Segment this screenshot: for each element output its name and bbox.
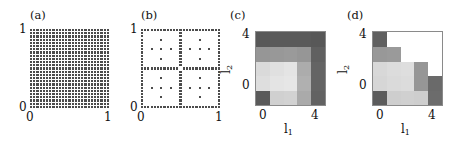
panel-a-ytick-top: 1 (19, 22, 27, 36)
grid-point (72, 90, 74, 92)
sparse-grid-point (218, 103, 220, 105)
grid-point (72, 51, 74, 53)
grid-point (100, 67, 102, 69)
grid-point (97, 61, 99, 63)
grid-point (33, 71, 35, 73)
grid-point (68, 90, 70, 92)
grid-point (104, 103, 106, 105)
heatmap-cell (297, 47, 311, 62)
grid-point (88, 74, 90, 76)
grid-point (68, 61, 70, 63)
grid-point (72, 67, 74, 69)
sparse-grid-point (192, 106, 194, 108)
heatmap-cell (373, 61, 387, 76)
heatmap-cell (311, 90, 325, 105)
grid-point (72, 64, 74, 66)
heatmap-cell (428, 47, 442, 62)
grid-point (68, 35, 70, 37)
grid-point (94, 42, 96, 44)
grid-point (107, 103, 109, 105)
grid-point (84, 55, 86, 57)
grid-point (36, 80, 38, 82)
grid-point (56, 35, 58, 37)
grid-point (75, 74, 77, 76)
grid-point (46, 103, 48, 105)
grid-point (36, 61, 38, 63)
grid-point (49, 61, 51, 63)
grid-point (49, 58, 51, 60)
grid-point (107, 35, 109, 37)
grid-point (68, 29, 70, 31)
grid-point (62, 96, 64, 98)
grid-point (43, 35, 45, 37)
grid-point (33, 103, 35, 105)
grid-point (56, 39, 58, 41)
grid-point (43, 29, 45, 31)
grid-point (62, 87, 64, 89)
grid-point (33, 48, 35, 50)
sparse-grid-point (218, 90, 220, 92)
grid-point (78, 51, 80, 53)
grid-point (65, 90, 67, 92)
grid-point (97, 99, 99, 101)
sparse-grid-point (179, 51, 181, 53)
grid-point (91, 48, 93, 50)
grid-point (91, 71, 93, 73)
grid-point (36, 58, 38, 60)
grid-point (65, 106, 67, 108)
sparse-grid-point (199, 29, 201, 31)
panel-c-xtick-0: 0 (259, 108, 267, 122)
sparse-grid-point (186, 106, 188, 108)
grid-point (52, 96, 54, 98)
sparse-grid-point (186, 29, 188, 31)
sparse-grid-point (218, 29, 220, 31)
grid-point (84, 39, 86, 41)
grid-point (104, 67, 106, 69)
grid-point (43, 71, 45, 73)
grid-point (40, 103, 42, 105)
sparse-grid-point (157, 67, 159, 69)
heatmap-cell (373, 90, 387, 105)
grid-point (94, 29, 96, 31)
grid-point (30, 45, 32, 47)
grid-point (33, 67, 35, 69)
grid-point (94, 96, 96, 98)
sparse-grid-point (141, 48, 143, 50)
sparse-grid-point (147, 106, 149, 108)
grid-point (94, 51, 96, 53)
grid-point (43, 103, 45, 105)
grid-point (59, 93, 61, 95)
grid-point (36, 67, 38, 69)
grid-point (40, 48, 42, 50)
heatmap-cell (401, 32, 415, 47)
grid-point (94, 99, 96, 101)
sparse-grid-point (179, 58, 181, 60)
grid-point (30, 90, 32, 92)
sparse-grid-point (211, 67, 213, 69)
grid-point (75, 67, 77, 69)
panel-c-ytick-0: 0 (242, 78, 250, 92)
grid-point (30, 83, 32, 85)
heatmap-cell (256, 61, 270, 76)
sparse-grid-point (218, 61, 220, 63)
grid-point (36, 45, 38, 47)
grid-point (84, 99, 86, 101)
panel-d-plot-area (372, 31, 443, 106)
sparse-grid-point (202, 67, 204, 69)
grid-point (75, 48, 77, 50)
sparse-grid-point (141, 29, 143, 31)
grid-point (59, 48, 61, 50)
grid-point (40, 93, 42, 95)
grid-point (59, 67, 61, 69)
grid-point (49, 45, 51, 47)
grid-point (104, 29, 106, 31)
grid-point (97, 67, 99, 69)
grid-point (78, 103, 80, 105)
grid-point (104, 77, 106, 79)
grid-point (30, 106, 32, 108)
grid-point (68, 77, 70, 79)
grid-point (36, 83, 38, 85)
grid-point (33, 106, 35, 108)
grid-point (30, 77, 32, 79)
grid-point (100, 99, 102, 101)
